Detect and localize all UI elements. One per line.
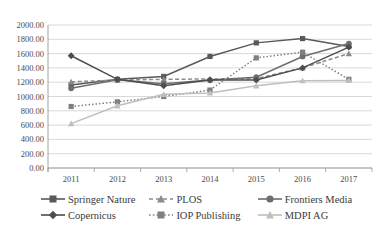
- legend-key-iop-publishing-icon: [148, 209, 174, 221]
- legend-label-plos: PLOS: [176, 194, 202, 205]
- y-tick-label: 1800.00: [16, 34, 44, 44]
- data-point: [69, 104, 74, 109]
- x-tick-label: 2017: [340, 174, 357, 184]
- chart-legend: Springer Nature PLOS Frontiers Media: [0, 189, 375, 233]
- legend-item-springer-nature[interactable]: Springer Nature: [40, 193, 148, 205]
- data-point: [300, 36, 305, 41]
- chart-container: 0.00200.00400.00600.00800.001000.001200.…: [0, 0, 375, 233]
- y-tick-label: 800.00: [21, 106, 44, 116]
- line-chart-svg: 0.00200.00400.00600.00800.001000.001200.…: [0, 0, 375, 190]
- series-mdpi-ag: [68, 77, 352, 126]
- legend-item-copernicus[interactable]: Copernicus: [40, 209, 148, 221]
- legend-label-copernicus: Copernicus: [68, 210, 116, 221]
- legend-item-iop-publishing[interactable]: IOP Publishing: [148, 209, 256, 221]
- y-tick-label: 1600.00: [16, 49, 44, 59]
- gridlines: [48, 25, 372, 172]
- legend-label-mdpi-ag: MDPI AG: [285, 210, 328, 221]
- x-tick-label: 2016: [294, 174, 311, 184]
- y-tick-label: 2000.00: [16, 20, 44, 30]
- y-tick-label: 1400.00: [16, 63, 44, 73]
- x-tick-label: 2011: [63, 174, 80, 184]
- x-tick-label: 2015: [248, 174, 265, 184]
- plot-area: 0.00200.00400.00600.00800.001000.001200.…: [0, 0, 375, 190]
- legend-key-springer-nature-icon: [40, 193, 66, 205]
- legend-row-2: Copernicus IOP Publishing MDPI AG: [0, 207, 375, 223]
- legend-item-plos[interactable]: PLOS: [148, 193, 256, 205]
- x-axis-tick-labels: 2011201220132014201520162017: [63, 174, 358, 184]
- legend-key-frontiers-media-icon: [257, 193, 283, 205]
- data-series-layer: [68, 36, 353, 126]
- legend-key-plos-icon: [148, 193, 174, 205]
- legend-item-mdpi-ag[interactable]: MDPI AG: [257, 209, 375, 221]
- series-frontiers-media: [68, 41, 352, 91]
- data-point: [254, 40, 259, 45]
- y-tick-label: 1200.00: [16, 77, 44, 87]
- data-point: [254, 55, 259, 60]
- legend-row-1: Springer Nature PLOS Frontiers Media: [0, 191, 375, 207]
- y-axis-tick-labels: 0.00200.00400.00600.00800.001000.001200.…: [16, 20, 44, 173]
- data-point: [300, 50, 305, 55]
- y-tick-label: 600.00: [21, 120, 44, 130]
- x-tick-label: 2012: [109, 174, 126, 184]
- x-tick-label: 2013: [155, 174, 172, 184]
- legend-key-mdpi-ag-icon: [257, 209, 283, 221]
- data-point: [207, 54, 212, 59]
- y-tick-label: 1000.00: [16, 92, 44, 102]
- legend-key-copernicus-icon: [40, 209, 66, 221]
- y-tick-label: 200.00: [21, 149, 44, 159]
- legend-item-frontiers-media[interactable]: Frontiers Media: [257, 193, 375, 205]
- x-axis: [48, 168, 372, 172]
- y-tick-label: 400.00: [21, 134, 44, 144]
- y-tick-label: 0.00: [29, 163, 44, 173]
- legend-label-springer-nature: Springer Nature: [68, 194, 135, 205]
- legend-label-frontiers-media: Frontiers Media: [285, 194, 352, 205]
- legend-label-iop-publishing: IOP Publishing: [176, 210, 240, 221]
- data-point: [68, 85, 74, 91]
- x-tick-label: 2014: [202, 174, 220, 184]
